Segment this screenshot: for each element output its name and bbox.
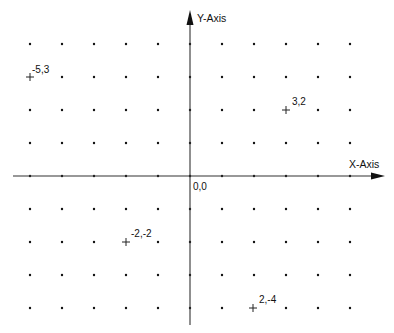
grid-dot [29, 241, 31, 243]
grid-dot [317, 307, 319, 309]
grid-dot [157, 274, 159, 276]
grid-dot [29, 43, 31, 45]
grid-dot [285, 241, 287, 243]
point-label: -5,3 [32, 64, 50, 75]
grid-dot [349, 274, 351, 276]
grid-dot [221, 43, 223, 45]
grid-dot [285, 307, 287, 309]
grid-dot [125, 142, 127, 144]
grid-dot [285, 76, 287, 78]
grid-dot [221, 241, 223, 243]
grid-dot [285, 274, 287, 276]
grid-dot [29, 307, 31, 309]
grid-dot [157, 307, 159, 309]
point-marker: 2,-4 [249, 294, 277, 312]
grid-dot [157, 43, 159, 45]
grid-dot [253, 241, 255, 243]
grid-dot [285, 142, 287, 144]
x-axis-label: X-Axis [349, 158, 379, 170]
grid-dot [93, 109, 95, 111]
point-label: -2,-2 [131, 228, 152, 239]
grid-dot [29, 142, 31, 144]
grid-dot [349, 109, 351, 111]
grid-dot [317, 109, 319, 111]
grid-dot [317, 43, 319, 45]
grid-dot [349, 307, 351, 309]
grid-dot [221, 76, 223, 78]
grid-dot [221, 208, 223, 210]
grid-dot [157, 76, 159, 78]
grid-dot [349, 142, 351, 144]
grid-dot [285, 208, 287, 210]
grid-dot [125, 307, 127, 309]
origin-label: 0,0 [193, 181, 207, 192]
grid-dot [125, 43, 127, 45]
grid-dot [349, 241, 351, 243]
grid-dot [285, 43, 287, 45]
grid-dot [221, 142, 223, 144]
grid-dot [93, 43, 95, 45]
grid-dot [157, 208, 159, 210]
point-marker: 3,2 [282, 96, 306, 114]
grid-dot [61, 43, 63, 45]
y-axis: Y-Axis [187, 10, 227, 325]
grid-dot [61, 241, 63, 243]
grid-dot [221, 109, 223, 111]
grid-dot [61, 76, 63, 78]
grid-dot [93, 208, 95, 210]
grid-dot [29, 109, 31, 111]
grid-dot [61, 109, 63, 111]
grid-dot [253, 109, 255, 111]
grid-dot [125, 76, 127, 78]
grid-dot [93, 142, 95, 144]
grid-dot [221, 274, 223, 276]
grid-dot [61, 274, 63, 276]
coordinate-grid-canvas: X-Axis Y-Axis 0,0 -5,3 3,2 -2,-2 [0, 0, 394, 333]
plus-marker-icon [122, 238, 130, 246]
point-marker: -5,3 [26, 64, 50, 81]
y-axis-label: Y-Axis [197, 12, 226, 24]
grid-dot [157, 109, 159, 111]
grid-dot [125, 208, 127, 210]
grid-dot [157, 241, 159, 243]
grid-dot [61, 307, 63, 309]
y-axis-arrow-icon [187, 10, 194, 25]
grid-dot [317, 241, 319, 243]
grid-dot [93, 76, 95, 78]
grid-dot [317, 142, 319, 144]
grid-dot [125, 109, 127, 111]
point-label: 2,-4 [259, 294, 277, 305]
point-marker: -2,-2 [122, 228, 152, 246]
plotted-points: -5,3 3,2 -2,-2 2,-4 [26, 64, 306, 312]
plus-marker-icon [282, 106, 290, 114]
grid-dot [93, 241, 95, 243]
coordinate-plane: X-Axis Y-Axis 0,0 -5,3 3,2 -2,-2 [0, 0, 394, 333]
grid-dot [253, 76, 255, 78]
grid-dot [349, 43, 351, 45]
grid-dot [61, 142, 63, 144]
grid-dot [253, 142, 255, 144]
point-label: 3,2 [292, 96, 306, 107]
grid-dot [253, 274, 255, 276]
grid-dot [317, 208, 319, 210]
x-axis-arrow-icon [371, 173, 385, 180]
grid-dot [349, 76, 351, 78]
grid-dot [125, 274, 127, 276]
grid-dot [221, 307, 223, 309]
grid-dot [253, 208, 255, 210]
grid-dot [29, 274, 31, 276]
grid-dot [317, 76, 319, 78]
plus-marker-icon [249, 304, 257, 312]
grid-dot [61, 208, 63, 210]
grid-dot [349, 208, 351, 210]
grid-dot [93, 274, 95, 276]
x-axis: X-Axis [13, 158, 385, 180]
grid-dot [93, 307, 95, 309]
grid-dot [29, 208, 31, 210]
grid-dot [157, 142, 159, 144]
grid-dot [317, 274, 319, 276]
grid-dot [253, 43, 255, 45]
